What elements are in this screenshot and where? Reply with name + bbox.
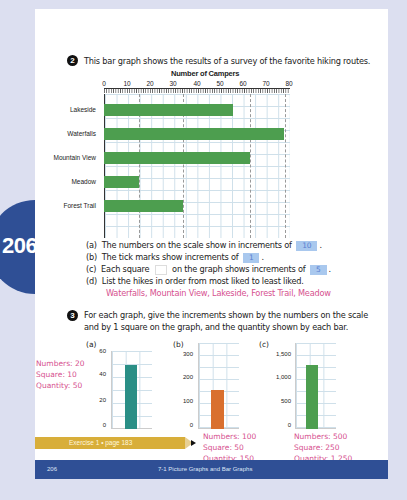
graph-c-numbers: Numbers: 500 <box>294 431 352 442</box>
y-tick: 300 <box>169 351 193 357</box>
part-b-text: The tick marks show increments of <box>102 252 239 262</box>
y-tick: 200 <box>169 374 193 380</box>
category-label: Forest Trail <box>63 202 96 209</box>
graph-a-quantity: Quantity: 50 <box>36 380 85 391</box>
part-b-answer[interactable]: 1 <box>243 253 260 263</box>
y-tick: 1,500 <box>267 351 291 357</box>
question-3-line2: and by 1 square on the graph, and the qu… <box>84 322 348 332</box>
x-tick: 20 <box>146 80 153 87</box>
page-footer: 206 7-1 Picture Graphs and Bar Graphs <box>35 460 388 479</box>
question-2-text: This bar graph shows the results of a su… <box>84 56 370 66</box>
graph-c-bar <box>306 365 318 429</box>
bar-meadow <box>104 176 139 188</box>
part-d-label: (d) <box>86 276 97 286</box>
dashed-gridline <box>285 94 286 238</box>
graph-b-label: (b) <box>173 340 184 349</box>
bar-lakeside <box>104 104 233 116</box>
period: . <box>319 240 321 250</box>
part-a-text: The numbers on the scale show in increme… <box>102 240 292 250</box>
y-tick: 40 <box>82 371 106 377</box>
graph-a-answers[interactable]: Numbers: 20 Square: 10 Quantity: 50 <box>36 358 85 391</box>
y-tick: 0 <box>267 422 291 428</box>
x-tick: 40 <box>193 80 200 87</box>
x-tick: 60 <box>239 80 246 87</box>
dashed-gridline <box>250 94 251 238</box>
part-a-answer[interactable]: 10 <box>296 241 317 251</box>
graph-b-numbers: Numbers: 100 <box>203 431 256 442</box>
part-d-answer[interactable]: Waterfalls, Mountain View, Lakeside, For… <box>106 288 331 298</box>
question-3-line1: For each graph, give the increments show… <box>84 310 368 320</box>
category-label: Mountain View <box>53 154 96 161</box>
page-tab-number: 206 <box>2 233 37 259</box>
x-tick: 70 <box>262 80 269 87</box>
part-d-text: List the hikes in order from most liked … <box>102 276 304 286</box>
bar-mountain-view <box>104 152 250 164</box>
part-b-label: (b) <box>86 252 97 262</box>
y-tick: 20 <box>82 397 106 403</box>
bar-waterfalls <box>104 128 284 140</box>
question-3-badge: 3 <box>67 310 78 321</box>
y-tick: 0 <box>82 422 106 428</box>
graph-a-bar <box>125 365 137 429</box>
bar-forest-trail <box>104 200 183 212</box>
part-c-label: (c) <box>86 264 96 274</box>
chart-title: Number of Campers <box>171 69 239 78</box>
x-tick: 0 <box>102 80 106 87</box>
graph-c-square: Square: 250 <box>294 442 352 453</box>
y-tick: 100 <box>169 398 193 404</box>
part-d: (d) List the hikes in order from most li… <box>86 276 304 286</box>
period: . <box>329 264 331 274</box>
part-c-answer[interactable]: 5 <box>310 265 327 275</box>
pencil-lead-icon <box>191 440 196 446</box>
x-tick: 80 <box>285 80 292 87</box>
y-tick: 500 <box>267 398 291 404</box>
category-label: Waterfalls <box>67 130 96 137</box>
y-tick: 1,000 <box>267 374 291 380</box>
part-c-text-before: Each square <box>101 264 149 274</box>
x-tick: 30 <box>169 80 176 87</box>
category-label: Meadow <box>71 178 96 185</box>
graph-b-bar <box>211 390 224 429</box>
part-a: (a) The numbers on the scale show in inc… <box>86 240 322 251</box>
period: . <box>261 252 263 262</box>
graph-c-label: (c) <box>259 340 269 349</box>
graph-a-square: Square: 10 <box>36 369 85 380</box>
part-a-label: (a) <box>86 240 97 250</box>
part-c: (c) Each square on the graph shows incre… <box>86 264 331 275</box>
part-b: (b) The tick marks show increments of 1. <box>86 252 264 263</box>
x-tick: 50 <box>216 80 223 87</box>
y-tick: 60 <box>82 348 106 354</box>
category-label: Lakeside <box>70 106 96 113</box>
question-2-badge: 2 <box>67 55 78 66</box>
footer-chapter-title: 7-1 Picture Graphs and Bar Graphs <box>158 466 252 472</box>
y-tick: 0 <box>169 422 193 428</box>
square-icon <box>155 265 167 275</box>
exercise-link[interactable]: Exercise 1 • page 183 <box>35 437 185 449</box>
footer-page-number: 206 <box>47 466 57 472</box>
part-c-text-after: on the graph shows increments of <box>172 264 305 274</box>
x-tick: 10 <box>123 80 130 87</box>
graph-a-numbers: Numbers: 20 <box>36 358 85 369</box>
graph-b-square: Square: 50 <box>203 442 256 453</box>
